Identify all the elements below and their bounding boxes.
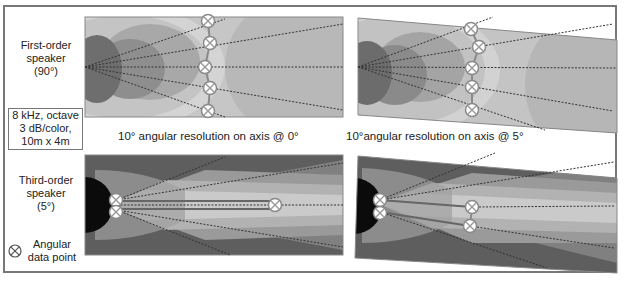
panel-first-order-5deg xyxy=(355,15,621,135)
panel-third-order-0deg xyxy=(85,155,347,258)
panel-first-order-0deg xyxy=(85,17,347,120)
panel-third-order-5deg xyxy=(352,148,622,273)
parameters-box: 8 kHz, octave 3 dB/color, 10m x 4m xyxy=(8,108,83,150)
legend: Angular data point xyxy=(8,238,78,264)
crossed-circle-icon xyxy=(8,244,22,258)
third-order-label: Third-order speaker (5°) xyxy=(8,174,84,213)
caption-axis-0: 10° angular resolution on axis @ 0° xyxy=(118,130,299,142)
first-order-label: First-order speaker (90°) xyxy=(8,39,84,78)
